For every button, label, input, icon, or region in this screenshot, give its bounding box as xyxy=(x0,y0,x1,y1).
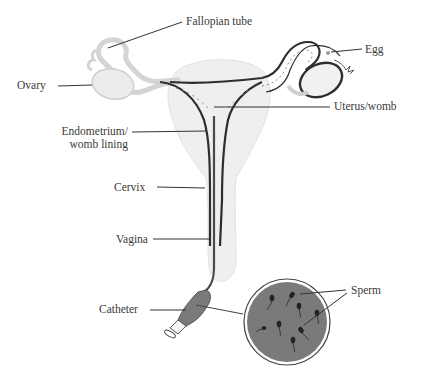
left-ovary-and-tube xyxy=(88,40,178,103)
diagram-canvas xyxy=(0,0,424,384)
sperm-inset xyxy=(196,279,330,365)
uterus-tissue xyxy=(168,60,270,282)
ovary-leader xyxy=(58,85,92,86)
label-endometrium: Endometrium/ womb lining xyxy=(62,125,128,151)
label-egg: Egg xyxy=(365,43,384,56)
label-vagina: Vagina xyxy=(116,233,148,246)
egg-leader xyxy=(331,49,362,52)
label-catheter: Catheter xyxy=(99,303,138,316)
label-cervix: Cervix xyxy=(114,181,145,194)
label-fallopian-tube: Fallopian tube xyxy=(186,15,252,28)
label-endometrium-line2: womb lining xyxy=(62,138,128,151)
cervix-leader xyxy=(157,187,205,188)
label-endometrium-line1: Endometrium/ xyxy=(62,125,128,138)
left-ovary xyxy=(89,65,136,103)
fallopian-tube-leader xyxy=(108,22,182,48)
egg xyxy=(326,51,330,55)
label-ovary: Ovary xyxy=(17,79,46,92)
label-sperm: Sperm xyxy=(351,284,381,297)
label-uterus: Uterus/womb xyxy=(334,100,397,113)
